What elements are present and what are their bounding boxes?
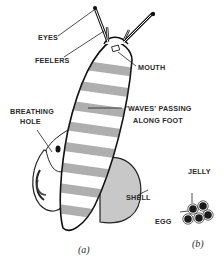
diagram-drawing: EYES FEELERS MOUTH BREATHING HOLE 'WAVES… xyxy=(0,0,224,260)
label-waves-line2: ALONG FOOT xyxy=(133,116,183,125)
breathing-hole-mark xyxy=(56,146,61,153)
label-waves-line1: 'WAVES' PASSING xyxy=(126,104,192,113)
label-egg: EGG xyxy=(155,217,172,226)
caption-a: (a) xyxy=(78,244,90,256)
label-eyes: EYES xyxy=(38,33,58,42)
label-jelly: JELLY xyxy=(188,167,211,176)
right-eye xyxy=(151,12,155,16)
snail-diagram: EYES FEELERS MOUTH BREATHING HOLE 'WAVES… xyxy=(0,0,224,260)
label-mouth: MOUTH xyxy=(138,63,165,72)
label-feelers: FEELERS xyxy=(35,56,70,65)
caption-b: (b) xyxy=(192,238,204,250)
label-breathing-hole-line1: BREATHING xyxy=(10,107,54,116)
label-breathing-hole-line2: HOLE xyxy=(20,117,41,126)
left-eye xyxy=(93,6,97,10)
label-shell: SHELL xyxy=(126,193,151,202)
egg-cluster xyxy=(183,201,213,224)
